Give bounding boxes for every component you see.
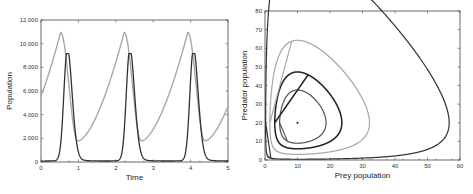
x-tick-label: 1 bbox=[77, 165, 81, 171]
x-axis-label: Time bbox=[126, 173, 144, 182]
phase-portrait-chart: 010203040506001020304050607080Prey popul… bbox=[240, 0, 464, 180]
orbit-line bbox=[280, 90, 326, 143]
y-axis-label: Population bbox=[5, 72, 14, 110]
y-tick-label: 4,000 bbox=[23, 112, 39, 118]
y-tick-label: 20 bbox=[255, 120, 262, 126]
y-tick-label: 80 bbox=[255, 8, 262, 14]
equilibrium-point bbox=[296, 122, 298, 124]
y-tick-label: 8,000 bbox=[23, 64, 39, 70]
figure: 01234502,0004,0006,0008,00010,00012,000T… bbox=[0, 0, 473, 194]
x-tick-label: 10 bbox=[294, 163, 301, 169]
orbit-line bbox=[266, 0, 450, 159]
x-tick-label: 40 bbox=[392, 163, 399, 169]
y-axis-label: Predator population bbox=[240, 51, 249, 121]
orbit-line bbox=[270, 40, 370, 154]
time-series-chart: 01234502,0004,0006,0008,00010,00012,000T… bbox=[5, 17, 230, 182]
orbit-line bbox=[275, 72, 342, 149]
x-tick-label: 60 bbox=[457, 163, 464, 169]
x-tick-label: 5 bbox=[226, 165, 230, 171]
y-tick-label: 2,000 bbox=[23, 135, 39, 141]
y-tick-label: 60 bbox=[255, 45, 262, 51]
x-tick-label: 0 bbox=[263, 163, 267, 169]
y-tick-label: 50 bbox=[255, 64, 262, 70]
x-tick-label: 30 bbox=[359, 163, 366, 169]
y-tick-label: 10,000 bbox=[20, 41, 39, 47]
y-tick-label: 10 bbox=[255, 138, 262, 144]
x-tick-label: 4 bbox=[189, 165, 193, 171]
y-tick-label: 6,000 bbox=[23, 88, 39, 94]
x-tick-label: 20 bbox=[327, 163, 334, 169]
plot-frame bbox=[265, 11, 460, 160]
y-tick-label: 0 bbox=[259, 157, 263, 163]
y-tick-label: 30 bbox=[255, 101, 262, 107]
y-tick-label: 0 bbox=[35, 159, 39, 165]
y-tick-label: 12,000 bbox=[20, 17, 39, 23]
y-tick-label: 70 bbox=[255, 27, 262, 33]
x-tick-label: 50 bbox=[424, 163, 431, 169]
x-tick-label: 0 bbox=[39, 165, 43, 171]
x-tick-label: 2 bbox=[114, 165, 118, 171]
y-tick-label: 40 bbox=[255, 83, 262, 89]
x-tick-label: 3 bbox=[152, 165, 156, 171]
x-axis-label: Prey population bbox=[335, 171, 391, 180]
